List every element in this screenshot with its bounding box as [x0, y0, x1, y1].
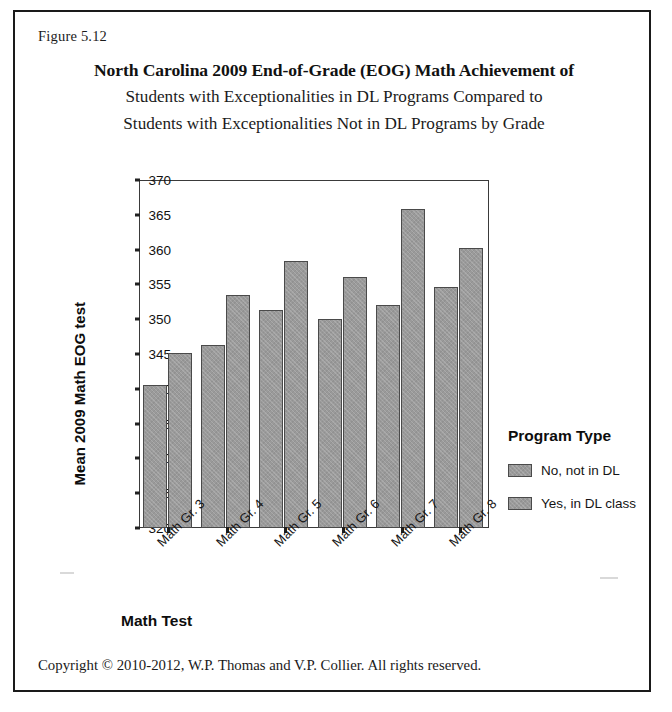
legend-swatch-icon [508, 497, 532, 510]
y-axis-tick-label: 360 [111, 242, 171, 257]
legend-item-yes-dl[interactable]: Yes, in DL class [508, 496, 648, 511]
bar [143, 385, 167, 528]
bar [168, 353, 192, 528]
y-axis-tick-mark [135, 387, 140, 390]
bar [201, 345, 225, 528]
y-axis-tick-mark [135, 492, 140, 495]
legend-item-no-dl[interactable]: No, not in DL [508, 463, 648, 478]
y-axis-tick-label: 350 [111, 312, 171, 327]
y-axis-tick-mark [135, 353, 140, 356]
bar-chart: 370365360355350345340335330325320 Math G… [15, 12, 653, 694]
bar [459, 248, 483, 528]
legend-swatch-icon [508, 464, 532, 477]
y-axis-tick-mark [135, 527, 140, 530]
bar [259, 310, 283, 528]
y-axis-tick-mark [135, 248, 140, 251]
y-axis-tick-label: 370 [111, 173, 171, 188]
copyright-notice: Copyright © 2010-2012, W.P. Thomas and V… [38, 657, 481, 674]
bar [343, 277, 367, 528]
y-axis-tick-mark [135, 213, 140, 216]
legend-title: Program Type [508, 427, 648, 445]
legend-item-label: Yes, in DL class [541, 496, 636, 511]
y-axis-tick-label: 365 [111, 207, 171, 222]
bar [318, 319, 342, 528]
y-axis-tick-label: 355 [111, 277, 171, 292]
legend-item-label: No, not in DL [541, 463, 620, 478]
y-axis-tick-mark [135, 457, 140, 460]
y-axis-tick-mark [135, 318, 140, 321]
x-axis-title: Math Test [121, 612, 192, 630]
bar [401, 209, 425, 528]
y-axis-title: Mean 2009 Math EOG test [71, 302, 88, 485]
legend: Program Type No, not in DL Yes, in DL cl… [508, 427, 648, 511]
y-axis-tick-mark [135, 422, 140, 425]
figure-frame: Figure 5.12 North Carolina 2009 End-of-G… [13, 10, 651, 692]
y-axis-tick-mark [135, 283, 140, 286]
scan-artifact [600, 577, 618, 579]
bar [376, 305, 400, 528]
y-axis-tick-label: 345 [111, 347, 171, 362]
bar [284, 261, 308, 528]
bar [434, 287, 458, 528]
y-axis-tick-mark [135, 179, 140, 182]
bar [226, 295, 250, 528]
scan-artifact [60, 572, 74, 574]
